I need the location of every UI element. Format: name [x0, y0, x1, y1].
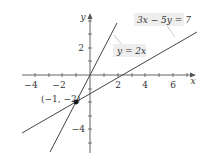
y-tick-label: −4	[72, 124, 86, 134]
x-axis-label: x	[190, 76, 195, 86]
x-tick-label: 6	[170, 80, 176, 90]
x-tick-label: −4	[24, 80, 38, 90]
line-label-3x-5y-7: 3x − 5y = 7	[137, 15, 191, 25]
line-label-y-2x: y = 2x	[116, 46, 146, 56]
x-tick-label: 4	[142, 80, 148, 90]
leader-line	[114, 35, 122, 45]
chart: −4 −2 2 4 6 2 −4 x y y = 2x 3x − 5y = 7 …	[0, 0, 211, 163]
point-label: (−1, −2)	[41, 94, 80, 104]
y-axis-arrow-icon	[88, 13, 93, 19]
y-tick-label: 2	[78, 43, 84, 53]
x-tick-label: 2	[115, 80, 121, 90]
x-tick-label: −2	[52, 80, 65, 90]
y-axis-label: y	[79, 12, 86, 22]
